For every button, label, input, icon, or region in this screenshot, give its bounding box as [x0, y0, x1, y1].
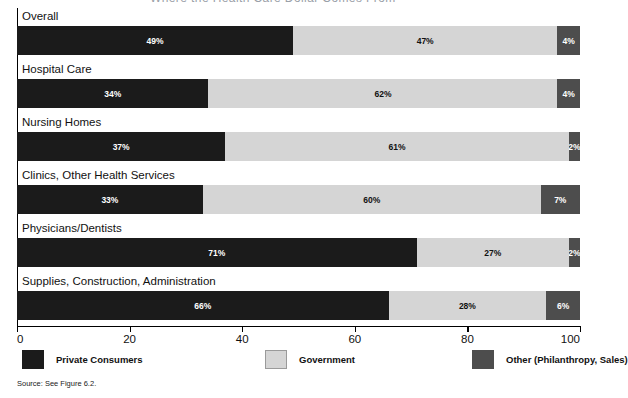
x-axis-tick-label: 0 [17, 333, 23, 345]
bar-segment: 47% [293, 26, 558, 55]
clipped-figure-title-text: Where the Health Care Dollar Comes From [150, 0, 396, 5]
bar-segment-value: 61% [389, 142, 406, 152]
x-axis-tick-label: 80 [461, 333, 474, 345]
y-axis-line [17, 8, 18, 326]
bar-segment: 7% [541, 185, 580, 214]
bar-segment-value: 34% [104, 89, 121, 99]
bar-segment: 37% [17, 132, 225, 161]
stacked-bar: 33%60%7% [17, 185, 580, 214]
bar-segment-value: 66% [194, 301, 211, 311]
bar-segment: 66% [17, 291, 389, 320]
bar-segment: 4% [557, 79, 580, 108]
bar-segment: 71% [17, 238, 417, 267]
legend-swatch [472, 350, 494, 369]
clipped-figure-title: Where the Health Care Dollar Comes From [0, 0, 595, 7]
bar-segment-value: 47% [417, 36, 434, 46]
bar-segment: 33% [17, 185, 203, 214]
bar-segment: 2% [569, 132, 580, 161]
stacked-bar: 71%27%2% [17, 238, 580, 267]
x-axis-tick-label: 100 [561, 333, 580, 345]
bar-segment-value: 37% [113, 142, 130, 152]
bar-segment-value: 7% [554, 195, 566, 205]
chart-legend: Private ConsumersGovernmentOther (Philan… [17, 350, 580, 372]
bar-segment: 49% [17, 26, 293, 55]
source-note: Source: See Figure 6.2. [17, 379, 96, 388]
bar-segment-value: 60% [363, 195, 380, 205]
bar-segment-value: 2% [569, 142, 580, 152]
bar-row-label: Hospital Care [22, 61, 92, 77]
legend-label: Government [299, 354, 355, 365]
bar-segment: 62% [208, 79, 557, 108]
bar-segment: 4% [557, 26, 580, 55]
x-axis-tick-label: 40 [236, 333, 249, 345]
bar-segment-value: 6% [557, 301, 569, 311]
bar-row-label: Clinics, Other Health Services [22, 167, 175, 183]
bar-row-label: Physicians/Dentists [22, 220, 122, 236]
bar-row-label: Overall [22, 8, 58, 24]
bar-segment-value: 28% [459, 301, 476, 311]
stacked-bar: 66%28%6% [17, 291, 580, 320]
legend-swatch [265, 350, 287, 369]
bar-row-label: Supplies, Construction, Administration [22, 273, 216, 289]
bar-segment-value: 71% [208, 248, 225, 258]
stacked-bar: 34%62%4% [17, 79, 580, 108]
legend-item[interactable]: Government [265, 350, 355, 369]
x-axis-tick [355, 326, 356, 332]
stacked-bar: 49%47%4% [17, 26, 580, 55]
x-axis-line [17, 326, 580, 327]
bar-segment: 2% [569, 238, 580, 267]
x-axis-tick [580, 326, 581, 332]
x-axis-tick-label: 20 [123, 333, 136, 345]
bar-segment-value: 27% [484, 248, 501, 258]
legend-label: Private Consumers [56, 354, 143, 365]
legend-item[interactable]: Private Consumers [22, 350, 143, 369]
legend-label: Other (Philanthropy, Sales) [506, 354, 628, 365]
x-axis-tick [17, 326, 18, 332]
x-axis-tick [242, 326, 243, 332]
legend-swatch [22, 350, 44, 369]
bar-segment: 27% [417, 238, 569, 267]
stacked-bar: 37%61%2% [17, 132, 580, 161]
bar-segment-value: 33% [101, 195, 118, 205]
bar-segment: 28% [389, 291, 547, 320]
bar-segment-value: 4% [563, 89, 575, 99]
bar-segment: 60% [203, 185, 541, 214]
bar-segment-value: 49% [146, 36, 163, 46]
bar-segment-value: 4% [563, 36, 575, 46]
bar-row-label: Nursing Homes [22, 114, 101, 130]
x-axis-tick [130, 326, 131, 332]
bar-segment: 34% [17, 79, 208, 108]
bar-segment: 6% [546, 291, 580, 320]
bar-segment: 61% [225, 132, 568, 161]
bar-segment-value: 2% [569, 248, 580, 258]
x-axis-tick-label: 60 [348, 333, 361, 345]
bar-segment-value: 62% [374, 89, 391, 99]
legend-item[interactable]: Other (Philanthropy, Sales) [472, 350, 628, 369]
x-axis-tick [467, 326, 468, 332]
chart-plot-area: Overall49%47%4%Hospital Care34%62%4%Nurs… [17, 8, 580, 326]
